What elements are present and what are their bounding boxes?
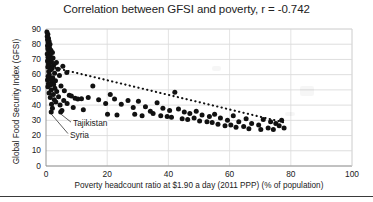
scatter-point: [114, 113, 119, 118]
scatter-point: [197, 119, 202, 124]
scatter-point: [55, 67, 60, 72]
scan-artifact: [285, 112, 295, 116]
scatter-point: [58, 84, 63, 89]
scatter-point: [204, 119, 209, 124]
scatter-point: [81, 107, 86, 112]
scatter-point: [244, 116, 249, 121]
scatter-point: [231, 113, 236, 118]
scatter-point: [47, 90, 52, 95]
scatter-point: [65, 101, 70, 106]
scatter-point: [86, 95, 91, 100]
scatter-point: [268, 119, 273, 124]
scatter-point: [136, 99, 141, 104]
scatter-point: [277, 123, 282, 128]
axis-lines: [46, 29, 352, 166]
scatter-point: [282, 125, 287, 130]
scatter-point: [96, 97, 101, 102]
scatter-point: [194, 109, 199, 114]
annotation-label-syria: Syria: [69, 130, 90, 140]
scatter-point: [210, 120, 215, 125]
grid-lines: [46, 29, 352, 166]
scatter-point: [60, 64, 65, 69]
scatter-point: [58, 103, 63, 108]
scatter-point: [182, 109, 187, 114]
scatter-point: [212, 112, 217, 117]
scatter-point: [119, 102, 124, 107]
scan-artifact: [300, 86, 314, 96]
scatter-point: [112, 97, 117, 102]
scatter-point: [200, 113, 205, 118]
scatter-point: [132, 112, 137, 117]
scatter-point: [126, 98, 131, 103]
scatter-point: [131, 105, 136, 110]
scatter-point: [271, 127, 276, 132]
scatter-point: [143, 104, 148, 109]
scatter-point: [192, 116, 197, 121]
scatter-point: [155, 100, 160, 105]
scatter-point: [160, 106, 165, 111]
scatter-point: [187, 111, 192, 116]
scatter-plot-canvas: [0, 0, 373, 202]
scatter-point: [180, 116, 185, 121]
scatter-point: [185, 117, 190, 122]
chart-figure: Correlation between GFSI and poverty, r …: [0, 0, 373, 202]
scatter-point: [90, 84, 95, 89]
scatter-point: [261, 117, 266, 122]
scatter-point: [246, 126, 251, 131]
scatter-point: [56, 94, 61, 99]
scatter-point: [62, 88, 67, 93]
scatter-point: [225, 118, 230, 123]
scatter-point: [64, 70, 69, 75]
scatter-point: [140, 113, 145, 118]
scatter-point: [151, 111, 156, 116]
scatter-point: [58, 109, 63, 114]
scatter-point: [279, 118, 284, 123]
scatter-point: [165, 114, 170, 119]
scatter-point: [266, 125, 271, 130]
scatter-point: [223, 123, 228, 128]
scatter-point: [236, 119, 241, 124]
scatter-point: [256, 122, 261, 127]
scatter-point: [176, 106, 181, 111]
scatter-point: [108, 92, 113, 97]
scatter-point: [228, 122, 233, 127]
scatter-point: [258, 127, 263, 132]
image-bottom-rule: [0, 196, 373, 197]
scatter-point: [234, 125, 239, 130]
scatter-point: [169, 115, 174, 120]
scatter-points: [44, 30, 286, 132]
scatter-point: [53, 100, 58, 105]
scatter-point: [167, 108, 172, 113]
scatter-point: [215, 122, 220, 127]
trendline-dotted: [55, 68, 285, 123]
annotation-label-tajikistan: Tajikistan: [72, 118, 108, 128]
scatter-point: [207, 114, 212, 119]
scatter-point: [249, 121, 254, 126]
scatter-point: [79, 96, 84, 101]
scatter-point: [103, 101, 108, 106]
scatter-point: [71, 105, 76, 110]
scan-artifact: [212, 66, 221, 71]
scatter-point: [172, 90, 177, 95]
scatter-point: [241, 124, 246, 129]
scatter-point: [158, 113, 163, 118]
scatter-point: [218, 116, 223, 121]
scatter-point: [49, 109, 54, 114]
scatter-point: [52, 71, 57, 76]
scatter-point: [105, 112, 110, 117]
scatter-point: [57, 73, 62, 78]
